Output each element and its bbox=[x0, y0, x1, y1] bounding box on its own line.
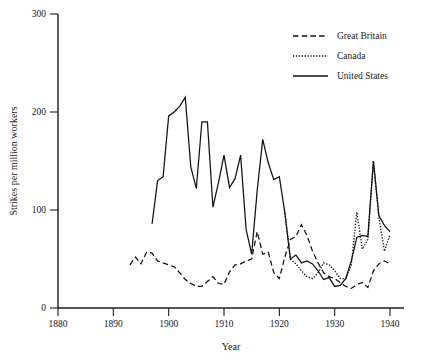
y-axis-ticks: 0100200300 bbox=[32, 9, 58, 313]
x-tick-label: 1900 bbox=[159, 319, 178, 329]
x-tick-label: 1910 bbox=[215, 319, 234, 329]
x-tick-label: 1940 bbox=[381, 319, 400, 329]
legend-label-canada: Canada bbox=[337, 51, 366, 61]
chart-legend: Great BritainCanadaUnited States bbox=[293, 31, 388, 81]
series-line-great-britain bbox=[130, 225, 390, 289]
legend-label-united-states: United States bbox=[337, 71, 388, 81]
y-tick-label: 300 bbox=[32, 9, 47, 19]
x-axis-ticks: 1880189019001910192019301940 bbox=[49, 308, 400, 329]
chart-figure: 0100200300 1880189019001910192019301940 … bbox=[0, 0, 422, 362]
legend-label-great-britain: Great Britain bbox=[337, 31, 387, 41]
y-tick-label: 0 bbox=[41, 303, 46, 313]
x-tick-label: 1880 bbox=[49, 319, 68, 329]
y-axis-title: Strikes per million workers bbox=[8, 106, 19, 215]
y-tick-label: 200 bbox=[32, 107, 47, 117]
x-axis-title: Year bbox=[222, 341, 241, 352]
data-series-group bbox=[130, 97, 390, 288]
x-tick-label: 1890 bbox=[104, 319, 123, 329]
series-line-united-states bbox=[152, 97, 390, 286]
x-tick-label: 1920 bbox=[270, 319, 289, 329]
line-chart: 0100200300 1880189019001910192019301940 … bbox=[0, 0, 422, 362]
y-tick-label: 100 bbox=[32, 205, 47, 215]
x-tick-label: 1930 bbox=[325, 319, 344, 329]
